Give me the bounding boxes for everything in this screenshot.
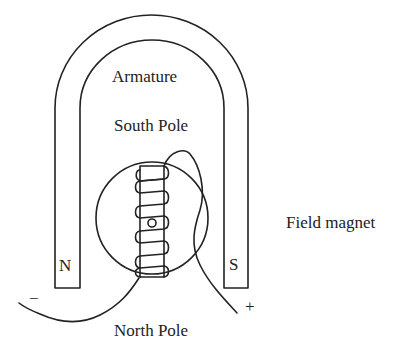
armature-label: Armature — [112, 68, 177, 85]
north-pole-label: North Pole — [114, 322, 188, 339]
field-magnet-label: Field magnet — [286, 214, 375, 231]
negative-terminal-label: − — [29, 290, 39, 307]
field-magnet-shape — [55, 15, 248, 288]
south-pole-label: South Pole — [114, 117, 188, 134]
armature-circle — [96, 162, 208, 274]
positive-terminal-label: + — [245, 298, 255, 315]
diagram-svg — [0, 0, 407, 357]
coil-core — [140, 166, 164, 277]
diagram-canvas: Armature South Pole N S Field magnet − +… — [0, 0, 407, 357]
s-pole-letter: S — [229, 256, 238, 273]
n-pole-letter: N — [59, 257, 71, 274]
armature-shaft — [148, 219, 156, 227]
